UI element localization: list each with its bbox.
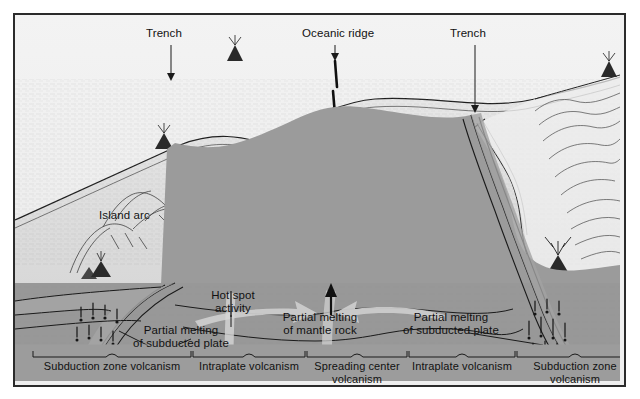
label-partial-melting-mantle: Partial melting of mantle rock	[265, 311, 375, 337]
pm-mantle-line-2: of mantle rock	[283, 324, 357, 336]
pm-sub-left-line-1: Partial melting	[144, 324, 218, 336]
hot-spot-line-1: Hot spot	[211, 289, 255, 301]
zone-label-line: Intraplate volcanism	[199, 360, 299, 372]
zone-label-line: volcanism	[332, 373, 382, 385]
pm-sub-left-line-2: of subducted plate	[133, 337, 229, 349]
label-oceanic-ridge: Oceanic ridge	[302, 27, 374, 40]
label-trench-right: Trench	[450, 27, 486, 40]
zone-label-subduction-right: Subduction zonevolcanism	[513, 360, 626, 386]
zone-label-line: Subduction zone volcanism	[44, 360, 180, 372]
pm-mantle-line-1: Partial melting	[283, 311, 357, 323]
zone-label-line: volcanism	[550, 373, 600, 385]
label-island-arc: Island arc	[99, 209, 150, 222]
hot-spot-line-2: activity	[215, 302, 251, 314]
zone-label-line: Intraplate volcanism	[412, 360, 512, 372]
zone-label-intraplate-left: Intraplate volcanism	[189, 360, 309, 373]
label-trench-left: Trench	[146, 27, 182, 40]
zone-label-intraplate-right: Intraplate volcanism	[405, 360, 519, 373]
zone-label-line: Spreading center	[314, 360, 399, 372]
pm-sub-right-line-2: of subducted plate	[403, 324, 499, 336]
label-partial-melting-subducted-right: Partial melting of subducted plate	[385, 311, 517, 337]
figure-canvas: Trench Oceanic ridge Trench Island arc H…	[0, 0, 640, 399]
zone-label-line: Subduction zone	[533, 360, 616, 372]
pm-sub-right-line-1: Partial melting	[414, 311, 488, 323]
zone-label-spreading-center: Spreading centervolcanism	[303, 360, 411, 386]
label-partial-melting-subducted-left: Partial melting of subducted plate	[115, 324, 247, 350]
diagram-frame: Trench Oceanic ridge Trench Island arc H…	[13, 13, 626, 387]
label-hot-spot-activity: Hot spot activity	[201, 289, 265, 315]
zone-label-subduction-left: Subduction zone volcanism	[29, 360, 195, 373]
